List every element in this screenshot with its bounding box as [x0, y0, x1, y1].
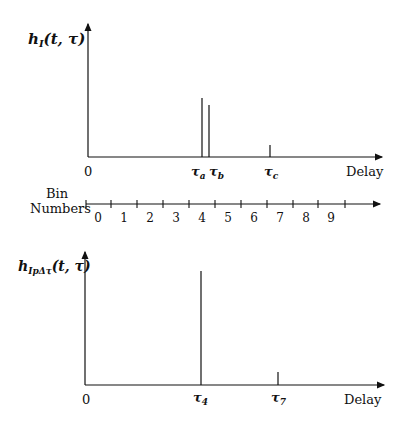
bin-number-labels: 0 1 2 3 4 5 6 7 8 9	[94, 211, 335, 225]
channel-impulse-diagram: hI(t, τ) 0 Delay τa τb τc Bin Numbers	[0, 0, 405, 426]
svg-text:2: 2	[146, 211, 154, 225]
svg-text:0: 0	[94, 211, 102, 225]
svg-text:6: 6	[250, 211, 258, 225]
bottom-origin-label: 0	[82, 392, 90, 407]
bottom-y-label: hIpΔτ(t, τ)	[18, 258, 91, 276]
bin-label-line1: Bin	[46, 186, 69, 201]
bottom-plot: hIpΔτ(t, τ) 0 Delay τ4 τ7	[18, 252, 384, 407]
tau-b-label: τb	[209, 164, 224, 181]
top-delay-label: Delay	[346, 164, 384, 179]
tau-a-label: τa	[191, 164, 206, 181]
svg-text:4: 4	[198, 211, 206, 225]
top-y-label: hI(t, τ)	[28, 30, 85, 49]
bottom-delay-label: Delay	[344, 392, 382, 407]
tau-4-label: τ4	[193, 390, 208, 407]
svg-text:9: 9	[327, 211, 335, 225]
tau-c-label: τc	[264, 164, 279, 181]
tau-7-label: τ7	[271, 390, 287, 407]
top-origin-label: 0	[84, 164, 92, 179]
svg-text:8: 8	[302, 211, 310, 225]
bin-axis: Bin Numbers 0 1 2 3 4 5 6 7 8 9	[30, 186, 380, 225]
svg-text:3: 3	[172, 211, 180, 225]
svg-text:7: 7	[276, 211, 284, 225]
bin-label-line2: Numbers	[30, 201, 91, 216]
svg-text:5: 5	[224, 211, 232, 225]
top-plot: hI(t, τ) 0 Delay τa τb τc	[28, 24, 384, 181]
svg-text:1: 1	[120, 211, 128, 225]
